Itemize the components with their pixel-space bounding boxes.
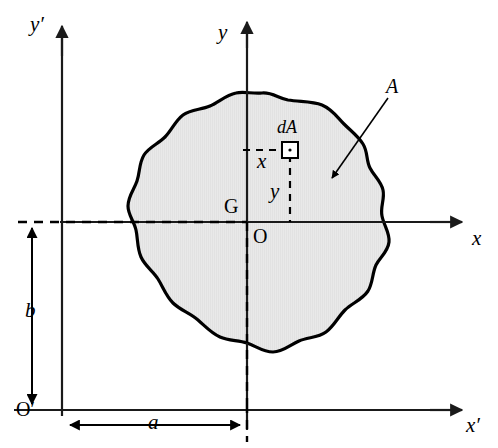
element-da-center-dot bbox=[288, 148, 291, 151]
b-distance-label: b bbox=[25, 300, 36, 321]
area-label-a: A bbox=[386, 76, 398, 96]
origin-prime-label: O′ bbox=[16, 399, 35, 419]
origin-label-o: O bbox=[253, 226, 267, 246]
a-distance-label: a bbox=[148, 412, 159, 433]
y-distance-label: y bbox=[270, 181, 279, 202]
figure-root: y′ y x x′ G O O′ A dA x y b a bbox=[0, 0, 498, 448]
element-label-da: dA bbox=[277, 118, 297, 136]
x-distance-label: x bbox=[257, 151, 266, 172]
centroid-label-g: G bbox=[224, 196, 238, 216]
y-axis-label: y bbox=[218, 22, 227, 43]
x-axis-label: x bbox=[472, 228, 481, 249]
y-prime-axis-label: y′ bbox=[30, 14, 44, 35]
x-prime-axis-label: x′ bbox=[466, 415, 480, 436]
figure-canvas bbox=[0, 0, 498, 448]
